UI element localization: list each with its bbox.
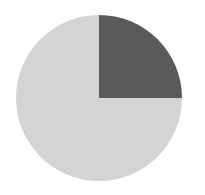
pie-slice-dark (99, 15, 182, 98)
pie-chart-canvas (0, 0, 205, 195)
pie-chart (0, 0, 205, 195)
